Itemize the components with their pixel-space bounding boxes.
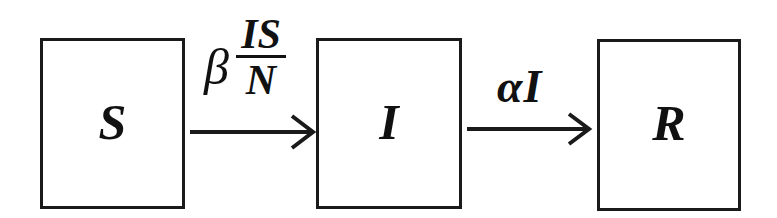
compartment-r-box: R (597, 39, 741, 211)
rate-s-to-i: β IS N (198, 12, 298, 112)
compartment-i-box: I (316, 38, 462, 209)
arrow-s-to-i-icon (188, 112, 318, 152)
compartment-s-label: S (43, 93, 182, 151)
fraction-denominator: N (246, 60, 276, 100)
compartment-s-box: S (40, 38, 185, 209)
arrow-i-to-r-icon (465, 109, 595, 149)
fraction-is-over-n: IS N (236, 14, 286, 100)
beta-coefficient: β (204, 38, 229, 96)
compartment-r-label: R (600, 94, 738, 152)
fraction-numerator: IS (241, 14, 281, 54)
compartment-i-label: I (319, 93, 459, 151)
rate-i-to-r: αI (497, 60, 542, 113)
